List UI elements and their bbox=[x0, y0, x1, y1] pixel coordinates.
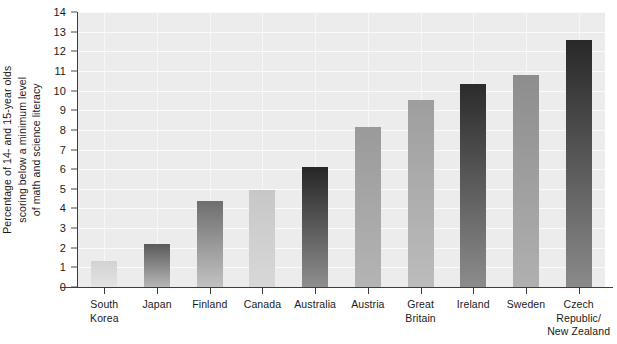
y-axis-tick-mark bbox=[71, 188, 77, 189]
bar-australia bbox=[302, 167, 328, 287]
x-axis-category-label-line: Austria bbox=[351, 298, 384, 312]
y-axis-tick-mark bbox=[71, 51, 77, 52]
x-axis-category-label: Austria bbox=[351, 298, 384, 312]
bar-japan bbox=[144, 244, 170, 287]
x-axis-category-label: CzechRepublic/New Zealand bbox=[547, 298, 610, 339]
x-axis-category-label: SouthKorea bbox=[90, 298, 119, 325]
bar-sweden bbox=[513, 75, 539, 287]
y-axis-tick-mark bbox=[71, 70, 77, 71]
y-axis-tick-mark bbox=[71, 169, 77, 170]
y-axis-tick-label: 10 bbox=[54, 85, 66, 97]
y-axis-tick-label: 1 bbox=[60, 261, 66, 273]
y-axis-title-line-3: of math and science literacy bbox=[29, 66, 44, 234]
y-axis-tick-label: 9 bbox=[60, 104, 66, 116]
x-axis-category-label: Canada bbox=[244, 298, 281, 312]
y-axis-tick-mark bbox=[71, 12, 77, 13]
y-axis-tick-label: 8 bbox=[60, 124, 66, 136]
x-axis-category-label-line: Ireland bbox=[457, 298, 490, 312]
x-axis-tick-mark bbox=[210, 288, 211, 294]
x-axis-tick-mark bbox=[579, 288, 580, 294]
y-axis-title-line-1: Percentage of 14- and 15-year olds bbox=[0, 66, 15, 234]
x-axis-category-label: Japan bbox=[142, 298, 171, 312]
bar-finland bbox=[197, 201, 223, 287]
y-axis-tick-label: 14 bbox=[54, 6, 66, 18]
y-axis-tick-mark bbox=[71, 129, 77, 130]
x-axis-category-label-line: Republic/ bbox=[547, 312, 610, 326]
y-axis-tick-mark bbox=[71, 208, 77, 209]
x-axis-category-label: Finland bbox=[192, 298, 227, 312]
y-axis-tick-label: 4 bbox=[60, 202, 66, 214]
x-axis-category-label-line: Czech bbox=[547, 298, 610, 312]
x-axis-category-label: Sweden bbox=[507, 298, 546, 312]
y-axis-tick-label: 11 bbox=[54, 65, 66, 77]
y-axis-tick-label: 7 bbox=[60, 144, 66, 156]
x-axis-category-label-line: Great bbox=[405, 298, 435, 312]
y-axis-tick-label: 3 bbox=[60, 222, 66, 234]
y-axis-tick-label: 12 bbox=[54, 45, 66, 57]
bar-austria bbox=[355, 127, 381, 287]
y-axis-tick-mark bbox=[71, 110, 77, 111]
y-axis-tick-label: 2 bbox=[60, 242, 66, 254]
x-axis-category-label-line: Korea bbox=[90, 312, 119, 326]
y-axis-tick-label: 6 bbox=[60, 163, 66, 175]
bar-great-britain bbox=[408, 100, 434, 287]
gridline-vertical bbox=[104, 12, 105, 287]
x-axis-tick-mark bbox=[262, 288, 263, 294]
x-axis-category-label-line: Canada bbox=[244, 298, 281, 312]
y-axis-line bbox=[77, 12, 78, 288]
y-axis-tick-mark bbox=[71, 267, 77, 268]
x-axis-line bbox=[60, 287, 613, 288]
plot-area bbox=[78, 12, 605, 287]
y-axis-tick-label: 5 bbox=[60, 183, 66, 195]
x-axis-category-label: Ireland bbox=[457, 298, 490, 312]
x-axis-tick-mark bbox=[104, 288, 105, 294]
bar-south-korea bbox=[91, 261, 117, 287]
bar-chart: Percentage of 14- and 15-year olds scori… bbox=[0, 0, 617, 344]
x-axis-category-label: GreatBritain bbox=[405, 298, 435, 325]
y-axis-tick-mark bbox=[71, 228, 77, 229]
x-axis-tick-mark bbox=[315, 288, 316, 294]
x-axis-tick-mark bbox=[421, 288, 422, 294]
x-axis-tick-mark bbox=[473, 288, 474, 294]
x-axis-category-label: Australia bbox=[294, 298, 336, 312]
y-axis-tick-label: 13 bbox=[54, 26, 66, 38]
y-axis-tick-mark bbox=[71, 149, 77, 150]
x-axis-tick-mark bbox=[157, 288, 158, 294]
x-axis-tick-mark bbox=[526, 288, 527, 294]
y-axis-tick-mark bbox=[71, 90, 77, 91]
y-axis-title-line-2: scoring below a minimum level bbox=[15, 66, 30, 234]
y-axis-tick-mark bbox=[71, 31, 77, 32]
y-axis-tick-mark bbox=[71, 247, 77, 248]
y-axis-tick-mark bbox=[71, 287, 77, 288]
bar-ireland bbox=[460, 84, 486, 287]
x-axis-category-label-line: South bbox=[90, 298, 119, 312]
x-axis-category-label-line: Japan bbox=[142, 298, 171, 312]
x-axis-category-label-line: New Zealand bbox=[547, 325, 610, 339]
x-axis-category-label-line: Sweden bbox=[507, 298, 546, 312]
x-axis-category-label-line: Australia bbox=[294, 298, 336, 312]
x-axis-tick-mark bbox=[368, 288, 369, 294]
x-axis-category-label-line: Britain bbox=[405, 312, 435, 326]
bar-canada bbox=[249, 190, 275, 287]
x-axis-category-label-line: Finland bbox=[192, 298, 227, 312]
y-axis-title: Percentage of 14- and 15-year olds scori… bbox=[0, 0, 44, 300]
y-axis-tick-labels: 01234567891011121314 bbox=[44, 0, 71, 300]
bar-czech-republic-new-zealand bbox=[566, 40, 592, 287]
